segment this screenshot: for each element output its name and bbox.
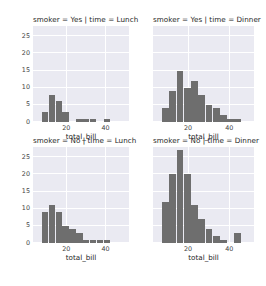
x-tick-label: 20 <box>184 246 192 252</box>
histogram-bar <box>83 119 89 122</box>
x-tick-label: 40 <box>225 246 233 252</box>
plot-area <box>33 26 129 122</box>
y-tick-label: 25 <box>22 154 30 160</box>
facet-panel-yes-dinner: smoker = Yes | time = Dinner 2040 total_… <box>153 15 254 140</box>
histogram-bar <box>184 88 191 122</box>
x-axis-label: total_bill <box>153 254 254 262</box>
histogram-bar <box>62 226 68 243</box>
facet-title: smoker = Yes | time = Dinner <box>153 15 254 24</box>
facet-title: smoker = Yes | time = Lunch <box>33 15 129 24</box>
histogram-bar <box>49 95 55 122</box>
histogram-bar <box>62 112 68 122</box>
x-tick-label: 40 <box>101 125 109 131</box>
facet-panel-yes-lunch: smoker = Yes | time = Lunch 0510152025 2… <box>33 15 129 140</box>
y-tick-label: 15 <box>22 67 30 73</box>
y-tick-label: 0 <box>26 240 30 246</box>
histogram-bar <box>191 205 198 243</box>
histogram-bar <box>198 219 205 243</box>
histogram-bar <box>169 91 176 122</box>
histogram-bars <box>153 147 254 243</box>
histogram-bars <box>33 26 129 122</box>
histogram-bar <box>234 119 241 122</box>
histogram-bar <box>83 240 89 243</box>
y-tick-label: 15 <box>22 188 30 194</box>
histogram-bar <box>97 240 103 243</box>
facet-panel-no-dinner: smoker = No | time = Dinner 2040 total_b… <box>153 136 254 261</box>
histogram-bar <box>42 212 48 243</box>
histogram-bar <box>90 240 96 243</box>
histogram-bar <box>220 240 227 243</box>
figure-canvas: smoker = Yes | time = Lunch 0510152025 2… <box>0 0 266 286</box>
histogram-bar <box>162 108 169 122</box>
x-tick-label: 40 <box>225 125 233 131</box>
facet-title: smoker = No | time = Dinner <box>153 136 254 145</box>
x-tick-label: 20 <box>62 125 70 131</box>
histogram-bar <box>206 229 213 243</box>
histogram-bar <box>90 119 96 122</box>
y-tick-label: 20 <box>22 50 30 56</box>
histogram-bar <box>104 119 110 122</box>
histogram-bar <box>76 119 82 122</box>
histogram-bar <box>69 229 75 243</box>
histogram-bars <box>33 147 129 243</box>
histogram-bar <box>177 71 184 122</box>
y-tick-label: 5 <box>26 102 30 108</box>
histogram-bar <box>184 174 191 243</box>
facet-title: smoker = No | time = Lunch <box>33 136 129 145</box>
y-tick-label: 0 <box>26 119 30 125</box>
histogram-bar <box>42 112 48 122</box>
histogram-bar <box>169 174 176 243</box>
y-tick-label: 10 <box>22 206 30 212</box>
histogram-bar <box>162 202 169 243</box>
y-tick-label: 10 <box>22 85 30 91</box>
plot-area <box>33 147 129 243</box>
histogram-bar <box>56 101 62 122</box>
histogram-bar <box>220 115 227 122</box>
histogram-bar <box>213 236 220 243</box>
plot-area <box>153 26 254 122</box>
x-axis-label: total_bill <box>33 254 129 262</box>
histogram-bar <box>213 108 220 122</box>
plot-area <box>153 147 254 243</box>
histogram-bar <box>234 233 241 243</box>
histogram-bar <box>49 205 55 243</box>
histogram-bar <box>206 105 213 122</box>
histogram-bars <box>153 26 254 122</box>
histogram-bar <box>177 150 184 243</box>
facet-panel-no-lunch: smoker = No | time = Lunch 0510152025 20… <box>33 136 129 261</box>
histogram-bar <box>191 81 198 122</box>
x-tick-label: 20 <box>184 125 192 131</box>
histogram-bar <box>76 233 82 243</box>
histogram-bar <box>198 95 205 122</box>
histogram-bar <box>104 240 110 243</box>
histogram-bar <box>227 119 234 122</box>
y-tick-label: 20 <box>22 171 30 177</box>
histogram-bar <box>56 212 62 243</box>
x-tick-label: 20 <box>62 246 70 252</box>
y-tick-label: 5 <box>26 223 30 229</box>
y-tick-label: 25 <box>22 33 30 39</box>
x-tick-label: 40 <box>101 246 109 252</box>
